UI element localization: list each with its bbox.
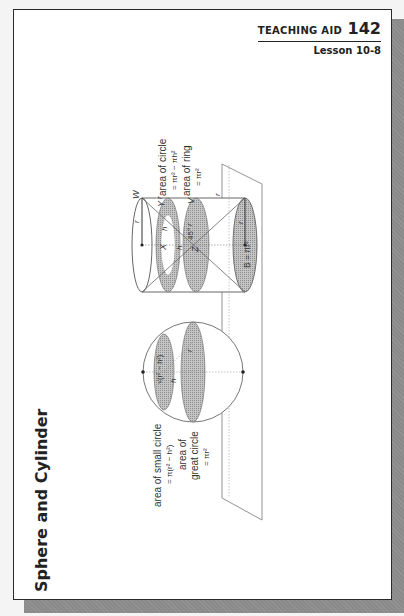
area-small-circle-label: area of small circle	[152, 423, 163, 507]
sphere-cylinder-diagram: W Y V X Z 45° r r r r r h h B = πr² area…	[0, 0, 404, 616]
area-of-circle-label: area of circle	[157, 138, 168, 196]
label-r-4: r	[185, 223, 194, 226]
area-of-ring-label: area of ring	[181, 145, 192, 196]
label-Y: Y	[156, 200, 166, 207]
radius-expression: √(r² − h²)	[155, 354, 164, 384]
area-great-circle-formula: = πr²	[202, 448, 211, 466]
area-small-circle-formula: = π(r² − h²)	[165, 444, 174, 484]
label-h-1: h	[160, 226, 169, 231]
label-r-3: r	[213, 193, 222, 196]
label-W: W	[131, 189, 141, 199]
area-great-circle-label-2: great circle	[189, 431, 200, 480]
label-r-top: r	[132, 220, 141, 223]
label-X: X	[158, 243, 168, 251]
area-of-ring-formula: = πr²	[194, 168, 203, 186]
area-of-circle-formula: = πr² − πh²	[170, 150, 179, 190]
base-formula: B = πr²	[242, 241, 252, 268]
area-great-circle-label-1: area of	[177, 439, 188, 470]
label-h-2: h	[175, 245, 184, 250]
label-angle: 45°	[186, 228, 195, 240]
label-V: V	[186, 197, 196, 204]
label-r-base: r	[236, 221, 245, 224]
label-r-sphere: r	[185, 349, 194, 352]
label-Z: Z	[190, 246, 200, 253]
label-h-sphere: h	[169, 378, 178, 383]
